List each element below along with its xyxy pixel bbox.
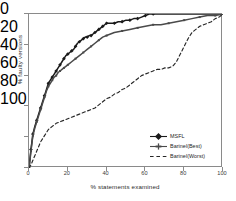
series-marker (40, 108, 42, 110)
legend-swatch-dashed-icon (150, 152, 167, 161)
series-marker (137, 27, 139, 29)
series-marker (214, 15, 216, 17)
series-marker (106, 35, 108, 37)
series-marker (44, 96, 46, 98)
series-marker (59, 70, 61, 72)
series-marker (90, 45, 92, 47)
series-marker (151, 14, 155, 16)
legend-swatch-solid-plus-icon (150, 142, 167, 151)
y-axis-label: % faulty versions (16, 5, 23, 115)
series-marker (63, 67, 65, 69)
legend-item-msfl: MSFL (150, 131, 218, 141)
series-marker (47, 85, 49, 87)
legend-item-barinel-worst: Barinel(Worst) (150, 151, 218, 161)
legend-swatch-solid-diamond-icon (150, 132, 167, 141)
series-marker (98, 39, 100, 41)
series-marker (32, 135, 34, 137)
series-marker (30, 150, 32, 152)
series-marker (199, 16, 201, 18)
legend-item-barinel-best: Barinel(Best) (150, 141, 218, 151)
series-marker (75, 58, 77, 60)
series-marker (67, 64, 69, 66)
legend-label: MSFL (170, 133, 185, 139)
series-marker (152, 24, 154, 26)
chart-legend: MSFL Barinel(Best) Barinel(Worst) (150, 131, 218, 161)
legend-label: Barinel(Best) (170, 143, 202, 149)
x-axis-label: % statements examined (28, 183, 222, 190)
series-marker (51, 79, 53, 81)
series-marker (183, 19, 185, 21)
series-marker (121, 30, 123, 32)
series-marker (168, 22, 170, 24)
legend-label: Barinel(Worst) (170, 153, 205, 159)
series-marker (36, 121, 38, 123)
chart-figure: 0 20 40 60 80 100 0 20 40 60 80 100 % st… (0, 0, 236, 201)
series-marker (55, 75, 57, 77)
series-marker (82, 52, 84, 54)
